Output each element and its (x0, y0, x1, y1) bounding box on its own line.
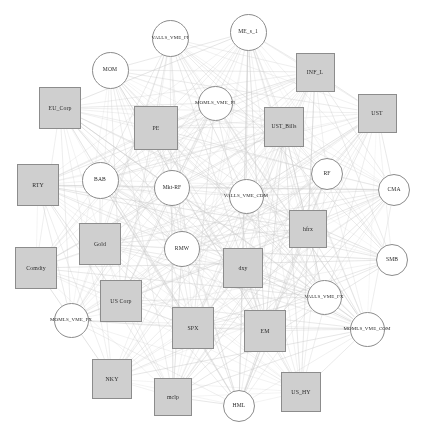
graph-node-cma[interactable]: CMA (378, 174, 410, 206)
graph-node-mom[interactable]: MOM (92, 52, 129, 89)
graph-node-label: dxy (238, 265, 247, 271)
network-graph-figure: VALLS_VME_FIME_s_1MOMINF_LMOMLS_VME_FIEU… (0, 0, 423, 434)
graph-node-eu-corp[interactable]: EU_Corp (39, 87, 81, 129)
graph-node-hml[interactable]: HML (223, 390, 255, 422)
graph-node-label: PE (153, 125, 160, 131)
graph-node-label: BAB (94, 177, 106, 183)
graph-node-em[interactable]: EM (244, 310, 286, 352)
graph-node-label: Gold (94, 241, 106, 247)
graph-node-mkt-rf[interactable]: Mkt-RF (154, 170, 190, 206)
graph-node-label: EM (261, 328, 270, 334)
graph-node-label: CMA (387, 187, 400, 193)
graph-node-valls-vme-cdm[interactable]: VALLS_VME_CDM (229, 179, 264, 214)
graph-node-label: MOMLS_VME_COM (343, 326, 390, 331)
graph-node-ust-bills[interactable]: UST_Bills (264, 107, 304, 147)
graph-node-label: RTY (32, 182, 44, 188)
graph-node-mclp[interactable]: mclp (154, 378, 192, 416)
graph-node-rty[interactable]: RTY (17, 164, 59, 206)
graph-node-label: UST_Bills (272, 124, 297, 130)
graph-node-ust[interactable]: UST (358, 94, 397, 133)
graph-node-label: MOM (103, 67, 117, 73)
graph-node-label: UST (371, 110, 382, 116)
graph-node-us-hy[interactable]: US_HY (281, 372, 321, 412)
graph-node-nky[interactable]: NKY (92, 359, 132, 399)
graph-node-label: VALLS_VME_FX (304, 294, 343, 299)
graph-node-smb[interactable]: SMB (376, 244, 408, 276)
graph-node-label: HML (233, 403, 246, 409)
graph-node-label: Mkt-RF (163, 185, 182, 191)
graph-node-label: SPX (188, 325, 199, 331)
graph-node-comdty[interactable]: Comdty (15, 247, 57, 289)
graph-node-rf[interactable]: RF (311, 158, 343, 190)
graph-node-label: SMB (386, 257, 398, 263)
graph-node-label: INF_L (307, 69, 323, 75)
graph-node-label: US_HY (291, 389, 310, 395)
graph-node-valls-vme-fi[interactable]: VALLS_VME_FI (152, 20, 189, 57)
graph-node-label: RMW (175, 246, 189, 252)
graph-node-inf-l[interactable]: INF_L (296, 53, 335, 92)
graph-node-spx[interactable]: SPX (172, 307, 214, 349)
graph-node-dxy[interactable]: dxy (223, 248, 263, 288)
graph-node-bab[interactable]: BAB (82, 162, 119, 199)
graph-node-gold[interactable]: Gold (79, 223, 121, 265)
graph-node-label: Comdty (26, 265, 45, 271)
graph-node-label: MOMLS_VME_FI (195, 100, 235, 105)
graph-node-hfrx[interactable]: hfrx (289, 210, 327, 248)
graph-node-label: hfrx (303, 226, 313, 232)
graph-node-label: NKY (106, 376, 119, 382)
graph-node-label: EU_Corp (48, 105, 71, 111)
graph-node-rmw[interactable]: RMW (164, 231, 200, 267)
graph-node-label: US Corp (110, 298, 131, 304)
graph-node-label: RF (323, 171, 330, 177)
graph-node-us-corp[interactable]: US Corp (100, 280, 142, 322)
graph-node-label: VALLS_VME_CDM (224, 193, 268, 198)
graph-node-label: ME_s_1 (238, 29, 258, 35)
graph-node-me-s-1[interactable]: ME_s_1 (230, 14, 267, 51)
graph-node-valls-vme-fx[interactable]: VALLS_VME_FX (307, 280, 342, 315)
graph-node-label: VALLS_VME_FI (151, 35, 188, 40)
graph-node-label: mclp (167, 394, 179, 400)
graph-node-momls-vme-com[interactable]: MOMLS_VME_COM (350, 312, 385, 347)
graph-node-momls-vme-fi[interactable]: MOMLS_VME_FI (198, 86, 233, 121)
graph-node-layer: VALLS_VME_FIME_s_1MOMINF_LMOMLS_VME_FIEU… (0, 0, 423, 434)
graph-node-label: MOMLS_VME_FX (50, 317, 92, 322)
graph-node-pe[interactable]: PE (134, 106, 178, 150)
graph-node-momls-vme-fx[interactable]: MOMLS_VME_FX (54, 303, 89, 338)
